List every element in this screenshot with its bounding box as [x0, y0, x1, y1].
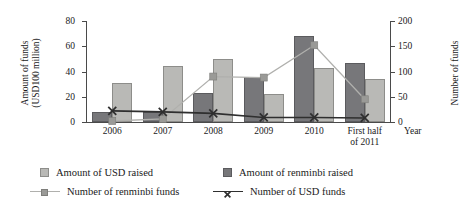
x-axis-category-label: First half of 2011	[335, 126, 395, 148]
legend-item[interactable]: Amount of renminbi raised	[223, 163, 430, 182]
left-tick-mark	[82, 72, 86, 73]
marker-renminbi-funds	[361, 96, 368, 103]
right-tick-mark	[391, 46, 395, 47]
right-tick-label: 150	[398, 41, 438, 51]
marker-renminbi-funds	[109, 117, 116, 124]
legend-item-label: Number of renminbi funds	[67, 186, 179, 197]
right-tick-label: 0	[398, 117, 438, 127]
legend-swatch-icon	[40, 168, 49, 177]
left-tick-label: 20	[15, 92, 75, 102]
plot-area	[87, 21, 390, 122]
left-tick-label: 0	[15, 117, 75, 127]
legend-item-label: Amount of USD raised	[56, 167, 153, 178]
chart-legend: Amount of USD raisedAmount of renminbi r…	[40, 163, 430, 201]
legend-line-icon	[30, 187, 60, 197]
marker-renminbi-funds	[311, 42, 318, 49]
x-axis-title: Year	[404, 126, 422, 136]
legend-x-marker-icon	[224, 189, 231, 196]
left-tick-label: 40	[15, 67, 75, 77]
left-tick-mark	[82, 97, 86, 98]
line-usd-funds	[112, 111, 365, 118]
left-tick-mark	[82, 122, 86, 123]
left-tick-label: 60	[15, 41, 75, 51]
legend-line-icon	[213, 187, 243, 197]
legend-item-label: Number of USD funds	[250, 186, 345, 197]
right-tick-label: 50	[398, 92, 438, 102]
x-axis-line	[86, 122, 391, 123]
line-layer	[87, 21, 390, 122]
legend-item[interactable]: Amount of USD raised	[40, 163, 223, 182]
left-tick-mark	[82, 21, 86, 22]
right-tick-mark	[391, 97, 395, 98]
legend-item[interactable]: Number of USD funds	[223, 182, 430, 201]
left-tick-label: 80	[15, 16, 75, 26]
left-tick-mark	[82, 46, 86, 47]
legend-swatch-icon	[223, 168, 232, 177]
legend-item[interactable]: Number of renminbi funds	[40, 182, 223, 201]
right-tick-label: 100	[398, 67, 438, 77]
right-tick-label: 200	[398, 16, 438, 26]
right-tick-mark	[391, 72, 395, 73]
marker-renminbi-funds	[260, 74, 267, 81]
legend-square-marker-icon	[41, 189, 48, 196]
legend-item-label: Amount of renminbi raised	[239, 167, 353, 178]
right-tick-mark	[391, 122, 395, 123]
marker-renminbi-funds	[159, 115, 166, 122]
right-tick-mark	[391, 21, 395, 22]
marker-renminbi-funds	[210, 73, 217, 80]
line-renminbi-funds	[112, 45, 365, 121]
